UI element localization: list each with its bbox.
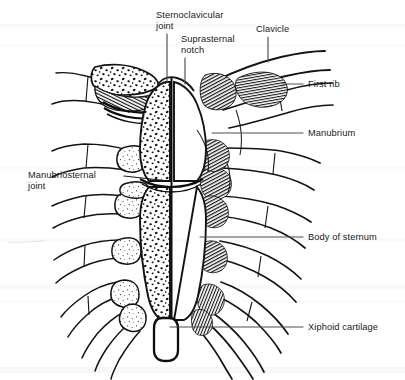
label-clavicle: Clavicle	[256, 24, 289, 35]
label-manubrium: Manubrium	[308, 128, 355, 139]
label-suprasternal-notch: Suprasternal notch	[181, 34, 235, 57]
xiphoid-cartilage-shape	[154, 318, 178, 361]
label-manubriosternal-joint: Manubriosternal joint	[28, 170, 96, 193]
label-body-of-sternum: Body of sternum	[308, 232, 377, 243]
label-xiphoid-cartilage: Xiphoid cartilage	[308, 322, 378, 333]
label-sternoclavicular-joint: Sternoclavicular joint	[156, 10, 223, 33]
label-first-rib: First rib	[308, 79, 340, 90]
